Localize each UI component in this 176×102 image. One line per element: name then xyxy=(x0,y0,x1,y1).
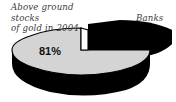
pie-value-stocks: 81% xyxy=(39,45,61,57)
chart-title: Above ground stocks of gold in 2004 xyxy=(11,2,103,34)
pie-chart-figure: Above ground stocks of gold in 2004 Bank… xyxy=(0,0,176,102)
pie-label-banks: Banks xyxy=(136,13,163,23)
